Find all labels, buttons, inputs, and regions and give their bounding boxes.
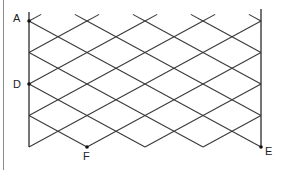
top-stub: [87, 14, 99, 21]
label-d: D: [13, 78, 21, 90]
point-d: [27, 82, 31, 86]
trellis-diagram: ADFE: [0, 0, 285, 170]
label-f: F: [83, 150, 90, 162]
point-f: [85, 145, 89, 149]
labeled-points: ADFE: [13, 12, 272, 162]
top-stub: [75, 14, 87, 21]
top-stub: [133, 14, 145, 21]
top-stub: [203, 14, 215, 21]
point-a: [27, 19, 31, 23]
diagonal-lattice: [29, 14, 261, 147]
label-e: E: [265, 145, 272, 157]
point-e: [259, 145, 263, 149]
top-stub: [29, 14, 41, 21]
top-stub: [249, 14, 261, 21]
top-stub: [145, 14, 157, 21]
top-stub: [191, 14, 203, 21]
label-a: A: [13, 12, 21, 24]
